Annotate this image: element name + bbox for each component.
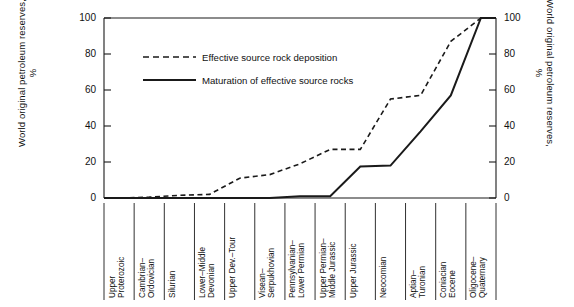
x-category-label-6: Pennsylvanian– Lower Permian	[288, 205, 306, 298]
y-tick-right-40: 40	[504, 121, 530, 131]
data-series	[104, 18, 496, 198]
x-category-label-11: Coniacian Eocene	[439, 205, 457, 298]
x-category-label-8: Upper Jurassic	[349, 205, 358, 298]
legend-marks	[143, 57, 196, 80]
y-tick-left-20: 20	[70, 157, 96, 167]
y-tick-right-0: 0	[504, 193, 530, 203]
x-category-label-7: Upper Permian– Middle Jurassic	[319, 205, 337, 298]
petroleum-reserves-chart: World original petroleum reserves, % Wor…	[0, 0, 574, 307]
legend-label-deposition: Effective source rock deposition	[202, 52, 337, 63]
x-category-label-5: Visean– Serpukhovian	[258, 205, 276, 298]
y-tick-left-60: 60	[70, 85, 96, 95]
x-category-label-4: Upper Dev.–Tour	[228, 205, 237, 298]
y-tick-left-40: 40	[70, 121, 96, 131]
y-tick-right-100: 100	[504, 13, 530, 23]
x-category-label-12: Oligocene– Quaternary	[469, 205, 487, 298]
plot-area	[0, 0, 574, 307]
x-category-label-10: Aptian– Turonian	[409, 205, 427, 298]
axis-ticks	[104, 18, 496, 198]
legend-label-maturation: Maturation of effective source rocks	[202, 75, 353, 86]
y-tick-right-20: 20	[504, 157, 530, 167]
y-tick-left-0: 0	[70, 193, 96, 203]
y-tick-left-80: 80	[70, 49, 96, 59]
series-line-maturation	[104, 18, 496, 198]
plot-frame	[104, 18, 496, 198]
x-category-label-2: Silurian	[168, 205, 177, 298]
x-category-label-9: Neocomian	[379, 205, 388, 298]
series-line-deposition	[104, 18, 496, 198]
y-tick-right-60: 60	[504, 85, 530, 95]
x-category-label-1: Cambrian– Ordovician	[138, 205, 156, 298]
y-tick-right-80: 80	[504, 49, 530, 59]
x-category-label-0: Upper Proterozoic	[108, 205, 126, 298]
x-category-label-3: Lower–Middle Devonian	[198, 205, 216, 298]
y-tick-left-100: 100	[70, 13, 96, 23]
